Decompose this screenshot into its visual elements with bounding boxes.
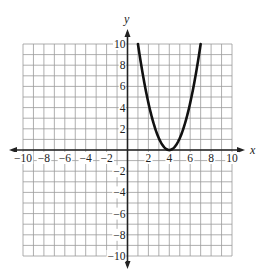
x-tick-label: 2: [146, 152, 152, 164]
x-tick-label: 4: [166, 152, 172, 164]
x-tick-label: −4: [80, 152, 92, 164]
y-axis-label: y: [123, 12, 130, 26]
x-tick-label: 6: [187, 152, 193, 164]
y-tick-label: −4: [113, 186, 125, 198]
y-axis-arrow-down-icon: [125, 261, 131, 269]
y-tick-label: 2: [120, 123, 126, 135]
x-tick-label: −10: [14, 152, 32, 164]
y-tick-label: 6: [120, 80, 126, 92]
coordinate-plane: −10−8−6−4−2246810108642−2−4−6−8−10 x y: [0, 0, 262, 275]
y-tick-label: −6: [113, 208, 125, 220]
y-axis-arrow-up-icon: [125, 29, 131, 37]
x-tick-label: 8: [208, 152, 214, 164]
x-tick-label: 10: [226, 152, 238, 164]
y-tick-label: −2: [113, 165, 125, 177]
x-tick-label: −2: [100, 152, 112, 164]
y-tick-label: −8: [113, 229, 125, 241]
x-tick-label: −6: [59, 152, 71, 164]
x-tick-label: −8: [38, 152, 50, 164]
y-tick-label: 10: [114, 38, 126, 50]
y-tick-label: 8: [120, 59, 126, 71]
y-tick-label: 4: [120, 102, 126, 114]
y-tick-label: −10: [108, 250, 126, 262]
x-axis-label: x: [249, 143, 256, 157]
